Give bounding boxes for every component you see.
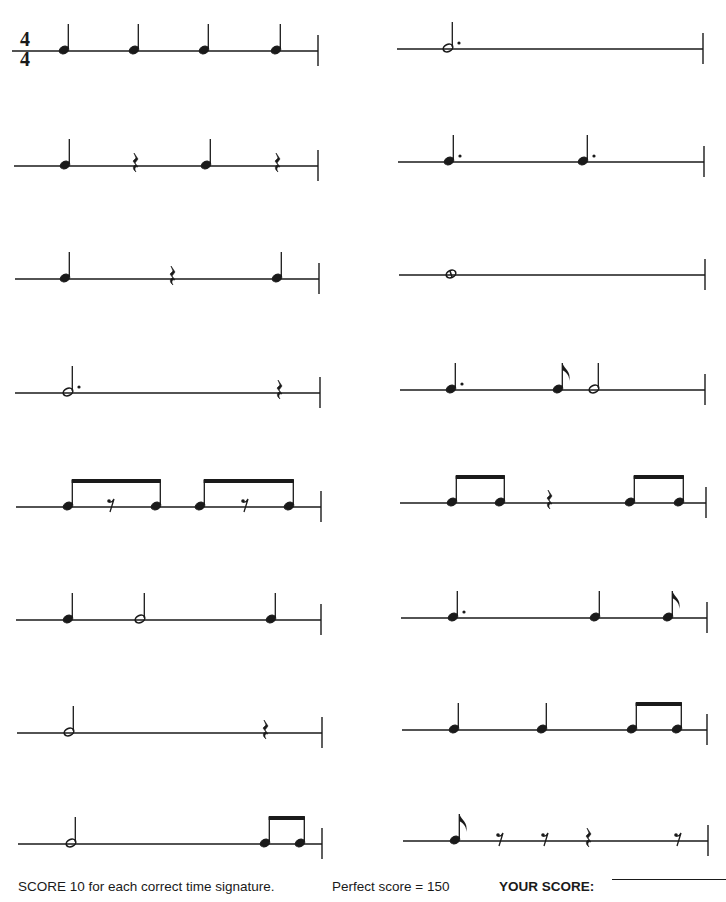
beam-bar [204,479,294,483]
quarter-rest-icon [263,720,268,739]
quarter-rest-icon [547,490,552,509]
measure-left-2 [14,139,318,181]
measures-container [12,22,708,859]
score-footer: SCORE 10 for each correct time signature… [18,879,718,899]
measure-left-1 [12,24,318,66]
beam-bar [636,702,682,706]
whole-note-mark [450,271,452,277]
perfect-score: Perfect score = 150 [332,879,449,894]
measure-right-8 [403,814,708,856]
eighth-flag-icon [562,363,569,381]
quarter-rest-icon [170,266,175,285]
measure-right-4 [400,363,705,405]
quarter-rest-icon [133,153,138,172]
time-signature: 4 4 [20,28,30,70]
measure-left-7 [17,706,322,748]
beam-bar [72,479,161,483]
time-signature-top: 4 [20,28,30,50]
measure-right-7 [402,702,707,745]
measure-right-2 [398,135,704,177]
measure-right-5 [400,475,706,518]
your-score-label: YOUR SCORE: [499,879,594,894]
measure-right-1 [397,22,703,64]
augmentation-dot-icon [460,382,463,385]
score-instruction: SCORE 10 for each correct time signature… [18,879,275,894]
augmentation-dot-icon [77,385,80,388]
eighth-flag-icon [459,814,466,832]
augmentation-dot-icon [592,154,595,157]
your-score-blank[interactable] [612,879,726,880]
measure-left-5 [16,479,321,522]
quarter-rest-icon [277,380,282,399]
measure-left-4 [15,366,320,408]
eighth-flag-icon [672,591,679,609]
quarter-rest-icon [586,828,591,847]
measure-left-6 [16,593,321,635]
beam-bar [269,816,305,820]
measure-right-6 [401,591,707,633]
augmentation-dot-icon [457,41,460,44]
augmentation-dot-icon [462,610,465,613]
measure-left-3 [15,252,319,294]
quarter-rest-icon [275,153,280,172]
measure-right-3 [399,259,705,290]
beam-bar [456,475,505,479]
beam-bar [634,475,684,479]
measure-left-8 [18,816,322,859]
augmentation-dot-icon [458,154,461,157]
